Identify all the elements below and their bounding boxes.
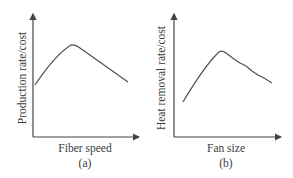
curve-a — [35, 45, 128, 85]
xlabel-a: Fiber speed — [58, 142, 112, 155]
ylabel-b: Heat removal rate/cost — [155, 25, 167, 130]
panel-a: Production rate/cost Fiber speed (a) — [16, 14, 139, 170]
caption-b: (b) — [219, 157, 233, 170]
xlabel-b: Fan size — [207, 142, 245, 154]
curve-b — [183, 51, 272, 102]
panel-b: Heat removal rate/cost Fan size (b) — [155, 14, 281, 170]
figure: Production rate/cost Fiber speed (a) Hea… — [0, 0, 293, 178]
caption-a: (a) — [79, 157, 92, 170]
ylabel-a: Production rate/cost — [16, 31, 28, 124]
